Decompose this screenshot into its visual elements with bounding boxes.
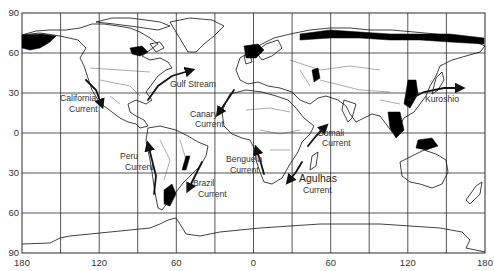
southeast-asia: [388, 112, 404, 138]
canada-ice: [130, 46, 148, 56]
y-axis-labels: 90 60 30 0 30 60 90: [8, 7, 19, 258]
benguela-current-label: Current: [230, 165, 259, 175]
x-tick-label: 180: [14, 257, 30, 268]
gulf-stream-label: Gulf Stream: [170, 79, 216, 89]
somali-current-label: Current: [322, 138, 351, 148]
canary-current-arrow: [218, 90, 234, 114]
agulhas-current-label: Current: [303, 185, 332, 195]
x-tick-label: 60: [325, 257, 336, 268]
alaska-ice: [22, 34, 56, 50]
y-tick-label: 30: [8, 167, 19, 178]
china-coast: [404, 80, 418, 108]
x-tick-label: 120: [91, 257, 107, 268]
andes: [182, 156, 190, 170]
y-tick-label: 60: [8, 47, 19, 58]
x-axis-labels: 180 120 60 0 60 120 180: [14, 257, 493, 268]
x-tick-label: 120: [400, 257, 416, 268]
kuroshio-label: Kuroshio: [425, 94, 459, 104]
peru-current-label: Current: [125, 162, 154, 172]
canary-label: Canary: [190, 109, 218, 119]
greenland-outline: [170, 18, 224, 52]
madagascar-outline: [310, 152, 318, 170]
y-tick-label: 30: [8, 87, 19, 98]
new-guinea: [416, 138, 438, 150]
australia-outline: [400, 150, 448, 188]
x-tick-label: 0: [251, 257, 256, 268]
peru-label: Peru: [120, 151, 138, 161]
caspian-region: [312, 68, 320, 82]
california-current-label: Current: [69, 104, 98, 114]
scandinavia-ice: [244, 44, 264, 58]
agulhas-label: Agulhas: [299, 172, 337, 184]
x-tick-label: 60: [171, 257, 182, 268]
world-map: 90 60 30 0 30 60 90 180 120 60 0 60 120 …: [0, 0, 494, 271]
new-zealand-outline: [466, 182, 482, 204]
current-labels: Gulf Stream California Current Canary Cu…: [60, 79, 459, 199]
x-tick-label: 180: [477, 257, 493, 268]
siberia-ice: [300, 30, 484, 44]
ice-masses: [22, 30, 484, 206]
current-arrows: [86, 70, 462, 194]
patagonia: [164, 184, 176, 206]
brazil-current-label: Current: [198, 189, 227, 199]
somali-label: Somali: [318, 128, 344, 138]
y-tick-label: 60: [8, 207, 19, 218]
benguela-label: Benguela: [226, 154, 263, 164]
y-tick-label: 0: [14, 127, 19, 138]
brazil-label: Brazil: [193, 178, 215, 188]
eurasia-outline: [236, 28, 485, 132]
california-label: California: [60, 93, 97, 103]
arctic-islands-outline: [96, 18, 170, 52]
canary-current-label: Current: [195, 119, 224, 129]
y-tick-label: 90: [8, 7, 19, 18]
